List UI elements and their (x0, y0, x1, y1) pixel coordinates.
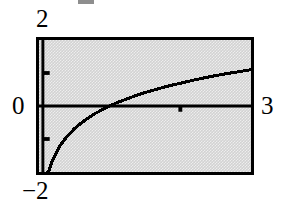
figure-container: 2 0 3 −2 (0, 0, 281, 208)
y-axis-max-label: 2 (36, 6, 49, 31)
log-curve (47, 70, 251, 172)
plot-canvas (39, 40, 251, 172)
y-axis-zero-label: 0 (12, 93, 25, 118)
y-axis-min-label: −2 (22, 178, 49, 203)
clipped-caption-remnant (78, 0, 94, 4)
plot-frame (36, 37, 254, 175)
x-axis-max-label: 3 (261, 93, 274, 118)
